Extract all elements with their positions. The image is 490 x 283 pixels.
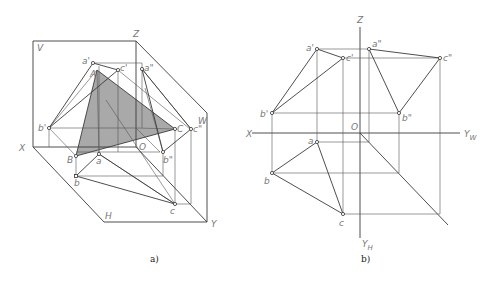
label-b: b (264, 176, 270, 186)
label-y-axis: Y (211, 219, 218, 229)
label-y-w-axis: YW (464, 129, 478, 142)
label-x-axis: X (18, 143, 26, 153)
label-v-plane: V (37, 43, 44, 53)
label-b-double-prime: b" (402, 113, 412, 123)
label-c: c (170, 206, 175, 216)
label-c-prime: c' (346, 53, 353, 63)
label-a-double-prime: a" (372, 39, 382, 49)
label-a: a (96, 156, 102, 166)
label-point-C: C (177, 124, 184, 134)
label-origin: O (139, 142, 146, 152)
label-a: a (308, 136, 314, 146)
h-plane-frame (33, 147, 207, 222)
label-y-h-axis: YH (362, 239, 374, 252)
label-point-A: A (89, 69, 96, 79)
label-c-prime: c' (120, 63, 127, 73)
label-point-B: B (67, 155, 73, 165)
triangle-v-projection (272, 49, 343, 113)
label-c-double-prime: c" (193, 124, 202, 134)
label-a-double-prime: a" (144, 63, 154, 73)
projector (49, 128, 76, 156)
triangle-h-projection (272, 142, 343, 214)
label-b-prime: b' (38, 123, 46, 133)
orthographic-diagram: Z X O YW YH a' c' b' a" c" b" a b c b) (245, 15, 478, 264)
label-h-plane: H (105, 211, 112, 221)
label-origin: O (351, 122, 358, 132)
label-c-double-prime: c" (443, 53, 452, 63)
triangle-w-projection (369, 49, 440, 113)
caption-b: b) (361, 254, 370, 264)
45-degree-line (360, 133, 448, 225)
label-c: c (339, 218, 344, 228)
label-b-prime: b' (260, 109, 268, 119)
triangle-abc-shaded (76, 70, 175, 156)
label-a-prime: a' (306, 43, 314, 53)
label-z-axis: Z (356, 15, 364, 25)
label-a-prime: a' (82, 56, 90, 66)
axonometric-diagram: V Z W X H Y O a' A c' a" b' C c" B a b" … (18, 29, 218, 264)
triangle-h-projection (76, 154, 175, 204)
label-z-axis: Z (132, 29, 140, 39)
label-b-double-prime: b" (163, 155, 173, 165)
label-b: b (74, 178, 80, 188)
projection-figure: V Z W X H Y O a' A c' a" b' C c" B a b" … (0, 0, 490, 283)
caption-a: a) (150, 254, 159, 264)
label-x-axis: X (245, 129, 253, 139)
